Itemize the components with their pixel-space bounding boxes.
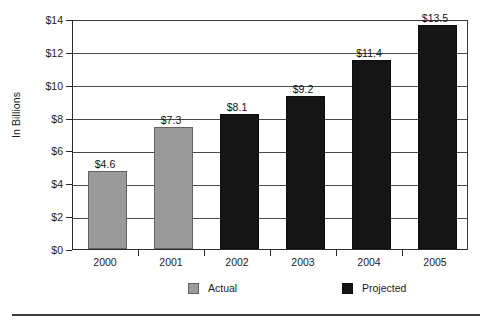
legend-label: Projected (362, 282, 406, 294)
legend-item-actual[interactable]: Actual (188, 282, 237, 294)
x-axis-tick-label: 2002 (207, 256, 267, 268)
bar-2000 (88, 171, 127, 249)
bar-2003 (286, 96, 325, 249)
y-axis-title: In Billions (10, 70, 22, 160)
chart-legend: ActualProjected (0, 278, 492, 298)
bar-chart-figure: In Billions $0$2$4$6$8$10$12$14 20002001… (0, 0, 492, 323)
y-axis-tick-mark (66, 250, 72, 251)
bar-value-label: $8.1 (212, 101, 262, 113)
gridline (73, 185, 467, 186)
gridline (73, 152, 467, 153)
legend-swatch-icon (342, 283, 353, 294)
y-axis-tick-label: $2 (23, 211, 63, 223)
y-axis-tick-label: $4 (23, 178, 63, 190)
bar-2001 (154, 127, 193, 249)
x-axis-tick-mark (138, 250, 139, 256)
gridline (73, 119, 467, 120)
legend-swatch-icon (188, 283, 199, 294)
bar-value-label: $11.4 (344, 47, 394, 59)
x-axis-tick-mark (402, 250, 403, 256)
gridline (73, 53, 467, 54)
bar-value-label: $9.2 (278, 83, 328, 95)
x-axis-tick-label: 2001 (141, 256, 201, 268)
x-axis-tick-mark (336, 250, 337, 256)
y-axis-tick-label: $12 (23, 47, 63, 59)
bar-2002 (220, 114, 259, 249)
x-axis-tick-label: 2005 (405, 256, 465, 268)
bar-2005 (418, 25, 457, 249)
y-axis-tick-label: $8 (23, 113, 63, 125)
legend-item-projected[interactable]: Projected (342, 282, 406, 294)
y-axis-tick-label: $0 (23, 244, 63, 256)
bar-value-label: $13.5 (410, 12, 460, 24)
x-axis-tick-label: 2003 (273, 256, 333, 268)
plot-area (72, 20, 468, 250)
x-axis-tick-mark (270, 250, 271, 256)
gridline (73, 86, 467, 87)
legend-label: Actual (208, 282, 237, 294)
x-axis-tick-label: 2004 (339, 256, 399, 268)
gridline (73, 218, 467, 219)
bar-value-label: $4.6 (80, 158, 130, 170)
x-axis-tick-label: 2000 (75, 256, 135, 268)
y-axis-tick-label: $10 (23, 80, 63, 92)
y-axis-tick-label: $6 (23, 145, 63, 157)
bar-value-label: $7.3 (146, 114, 196, 126)
bar-2004 (352, 60, 391, 249)
x-axis-tick-mark (204, 250, 205, 256)
y-axis-tick-label: $14 (23, 14, 63, 26)
bottom-divider-rule (12, 314, 480, 316)
